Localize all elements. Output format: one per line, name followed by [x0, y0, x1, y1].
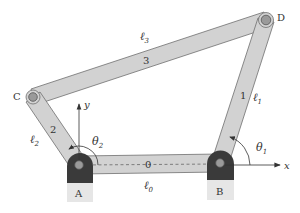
joint-d-pin — [259, 13, 274, 28]
length-label-l2: ℓ2 — [30, 133, 40, 148]
angle-label-theta2: θ2 — [92, 135, 104, 150]
angle-label-theta1: θ1 — [256, 141, 267, 156]
y-axis-label: y — [83, 99, 90, 110]
joint-label-a: A — [74, 188, 83, 199]
link-number-2: 2 — [50, 124, 56, 135]
length-label-l1: ℓ1 — [253, 91, 262, 106]
joint-label-b: B — [216, 186, 223, 197]
joint-c-pin — [26, 90, 40, 104]
length-label-l0: ℓ0 — [144, 179, 154, 194]
x-axis-label: x — [284, 160, 290, 171]
link-number-0: 0 — [145, 159, 151, 170]
joint-label-c: C — [13, 91, 21, 102]
joint-label-d: D — [277, 12, 285, 23]
link-number-3: 3 — [143, 55, 149, 66]
link-3 — [31, 12, 268, 105]
four-bar-linkage-diagram: A B C D 0 1 2 3 ℓ0 ℓ1 ℓ2 ℓ3 y x θ2 θ1 — [0, 0, 300, 213]
length-label-l3: ℓ3 — [140, 30, 150, 45]
link-number-1: 1 — [240, 90, 246, 101]
